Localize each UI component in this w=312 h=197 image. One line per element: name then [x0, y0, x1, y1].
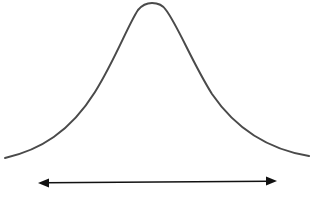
clipped-caption [60, 192, 300, 197]
bell-curve-diagram [0, 0, 312, 197]
bell-curve [5, 3, 309, 158]
arrow-right-icon [266, 177, 277, 186]
range-arrow [38, 177, 277, 188]
arrow-left-icon [38, 179, 49, 188]
